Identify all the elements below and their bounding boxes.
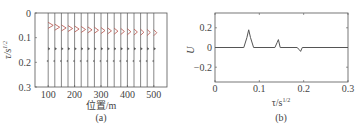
event-wiggle — [147, 29, 150, 35]
panel-a-ylabel-sup: 1/2 — [2, 41, 8, 49]
y-tick-label: 0 — [207, 42, 212, 53]
x-tick-label: 0 — [213, 83, 218, 94]
panel-a-caption: (a) — [95, 112, 106, 124]
event-wiggle — [121, 28, 125, 34]
panel-b-xlabel-main: τ/s — [272, 97, 283, 108]
event-wiggle — [119, 60, 120, 62]
panel-a-seismic-gather: 100200300400500 00.10.20.3 位置/m (a) τ/s1… — [2, 8, 167, 125]
waveform-curve — [215, 30, 348, 52]
y-tick-label: 0.1 — [19, 32, 32, 43]
event-wiggle — [114, 48, 116, 50]
event-wiggle — [94, 48, 96, 50]
x-tick-label: 200 — [67, 89, 82, 100]
event-wiggle — [127, 29, 130, 35]
event-wiggle — [55, 24, 60, 30]
panel-a-yticks: 00.10.20.3 — [19, 8, 38, 93]
panel-a-ylabel: τ/s1/2 — [2, 41, 13, 59]
event-wiggle — [94, 27, 98, 33]
event-wiggle — [88, 48, 90, 50]
event-wiggle — [114, 28, 118, 34]
event-wiggle — [141, 29, 144, 35]
seismic-traces — [47, 13, 157, 87]
event-wiggle — [154, 48, 156, 50]
panel-b-waveform: 00.10.20.3 0.20−0.2 U τ/s1/2 (b) — [185, 13, 354, 124]
event-wiggle — [47, 60, 48, 62]
event-wiggle — [106, 60, 107, 62]
event-wiggle — [154, 30, 157, 36]
x-tick-label: 300 — [94, 89, 109, 100]
event-wiggle — [126, 60, 127, 62]
event-wiggle — [139, 60, 140, 62]
event-wiggle — [73, 60, 74, 62]
y-tick-label: 0.2 — [200, 22, 213, 33]
event-wiggle — [133, 60, 134, 62]
event-wiggle — [86, 60, 87, 62]
panel-a-ylabel-main: τ/s — [2, 49, 13, 59]
x-tick-label: 400 — [120, 89, 135, 100]
svg-text:τ/s1/2: τ/s1/2 — [2, 41, 13, 59]
event-wiggle — [108, 48, 110, 50]
event-wiggle — [113, 60, 114, 62]
event-wiggle — [61, 48, 63, 50]
event-wiggle — [55, 48, 57, 50]
event-wiggle — [147, 48, 149, 50]
event-wiggle — [61, 25, 66, 31]
panel-b-xlabel: τ/s1/2 — [272, 97, 290, 108]
event-wiggle — [81, 48, 83, 50]
event-wiggle — [101, 28, 105, 34]
event-wiggle — [141, 48, 143, 50]
event-wiggle — [75, 48, 77, 50]
event-wiggle — [68, 48, 70, 50]
event-wiggle — [134, 29, 137, 35]
event-wiggle — [88, 27, 92, 33]
figure: 100200300400500 00.10.20.3 位置/m (a) τ/s1… — [0, 0, 358, 124]
event-wiggle — [93, 60, 94, 62]
event-wiggle — [100, 60, 101, 62]
y-tick-label: 0.2 — [19, 57, 32, 68]
event-wiggle — [68, 26, 73, 32]
event-wiggle — [80, 60, 81, 62]
event-wiggle — [134, 48, 136, 50]
event-wiggle — [48, 48, 50, 50]
panel-b-caption: (b) — [275, 112, 287, 124]
y-tick-label: −0.2 — [194, 62, 212, 73]
y-tick-label: 0 — [26, 8, 31, 19]
event-wiggle — [67, 60, 68, 62]
event-wiggle — [127, 48, 129, 50]
event-wiggle — [101, 48, 103, 50]
panel-a-xlabel: 位置/m — [86, 99, 117, 111]
event-wiggle — [146, 60, 147, 62]
panel-b-ylabel: U — [185, 46, 196, 54]
event-wiggle — [121, 48, 123, 50]
event-wiggle — [152, 60, 153, 62]
panel-b-xlabel-sup: 1/2 — [283, 97, 291, 103]
y-tick-label: 0.3 — [19, 82, 32, 93]
x-tick-label: 0.2 — [297, 83, 310, 94]
event-wiggle — [53, 60, 54, 62]
event-wiggle — [108, 28, 112, 34]
event-wiggle — [60, 60, 61, 62]
event-wiggle — [75, 26, 80, 32]
x-tick-label: 500 — [146, 89, 161, 100]
event-wiggle — [48, 22, 53, 28]
x-tick-label: 0.1 — [253, 83, 266, 94]
x-tick-label: 100 — [41, 89, 56, 100]
event-wiggle — [81, 26, 85, 32]
x-tick-label: 0.3 — [342, 83, 355, 94]
